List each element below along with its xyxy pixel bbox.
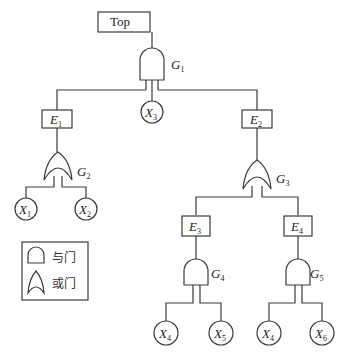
legend-label-and-gate: 与门 <box>52 252 76 264</box>
event-label-x3: X3 <box>145 106 157 122</box>
gate-label-g5: G5 <box>310 267 323 283</box>
event-label-x2: X2 <box>79 203 91 219</box>
event-label-x4-left: X4 <box>159 327 171 343</box>
event-label-e4: E4 <box>291 220 303 236</box>
or-gate-icon <box>44 152 72 180</box>
gate-label-g3: G3 <box>276 172 289 188</box>
event-label-x5: X5 <box>214 327 226 343</box>
legend-label-or-gate: 或门 <box>52 278 76 290</box>
legend-and-gate-icon <box>28 247 44 263</box>
fault-tree-diagram <box>0 0 348 364</box>
gate-label-g1: G1 <box>171 58 184 74</box>
event-label-e2: E2 <box>250 113 262 129</box>
event-label-x6: X6 <box>315 327 327 343</box>
event-label-e1: E1 <box>50 113 62 129</box>
gate-label-g4: G4 <box>211 267 224 283</box>
event-label-x4-right: X4 <box>262 327 274 343</box>
and-gate-icon <box>286 259 310 285</box>
gate-label-g2: G2 <box>77 165 90 181</box>
top-event-label: Top <box>110 15 130 28</box>
event-label-x1: X1 <box>19 203 31 219</box>
and-gate-icon <box>184 259 208 285</box>
and-gate-icon <box>140 48 164 80</box>
event-label-e3: E3 <box>189 220 201 236</box>
or-gate-icon <box>243 160 271 189</box>
